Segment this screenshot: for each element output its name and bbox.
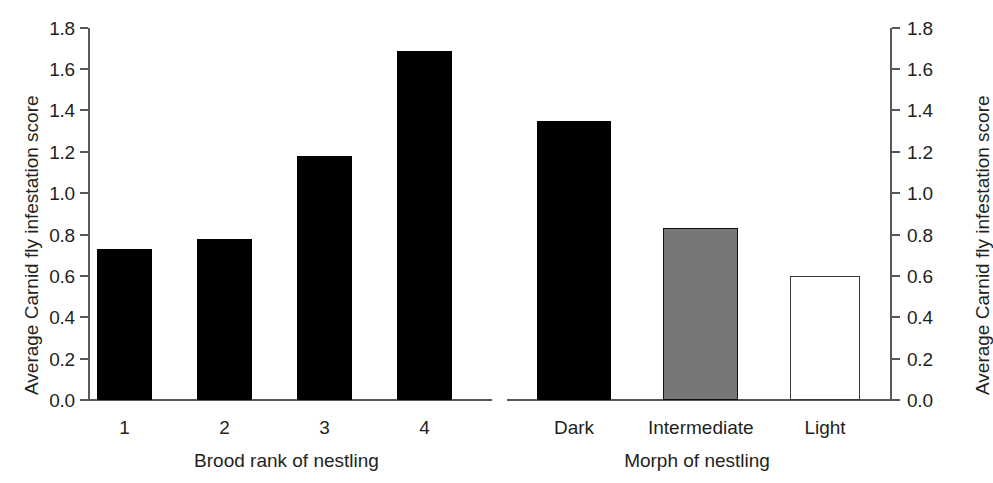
x-axis-title-right: Morph of nestling bbox=[495, 450, 989, 471]
bar-brood-rank-2[interactable] bbox=[197, 239, 252, 400]
x-tick-label-left-1: 2 bbox=[197, 418, 252, 438]
bar-brood-rank-1[interactable] bbox=[97, 249, 152, 400]
x-tick-label-right-1: Intermediate bbox=[648, 418, 753, 438]
bar-brood-rank-4[interactable] bbox=[397, 51, 452, 400]
x-axis-title-left: Brood rank of nestling bbox=[0, 450, 495, 471]
x-tick-label-right-2: Light bbox=[790, 418, 860, 438]
bar-brood-rank-3[interactable] bbox=[297, 156, 352, 400]
x-tick-label-right-0: Dark bbox=[537, 418, 611, 438]
bar-morph-light[interactable] bbox=[790, 276, 860, 400]
x-tick-label-left-2: 3 bbox=[297, 418, 352, 438]
bar-morph-dark[interactable] bbox=[537, 121, 611, 400]
bar-group-right bbox=[495, 28, 989, 400]
panel-morph: Average Carnid fly infestation score 0.0… bbox=[495, 0, 989, 483]
panel-brood-rank: Average Carnid fly infestation score 0.0… bbox=[0, 0, 495, 483]
x-tick-label-left-0: 1 bbox=[97, 418, 152, 438]
bar-group-left bbox=[0, 28, 495, 400]
x-tick-label-left-3: 4 bbox=[397, 418, 452, 438]
bar-morph-intermediate[interactable] bbox=[663, 228, 738, 400]
